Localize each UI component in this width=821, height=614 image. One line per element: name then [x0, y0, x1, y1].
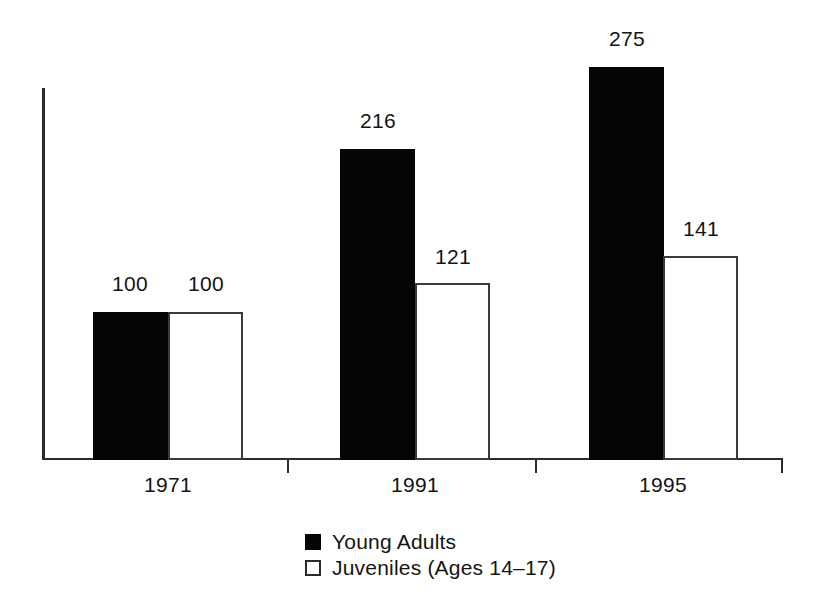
bar-value-1971-young-adults: 100 [90, 272, 170, 296]
x-axis-tick-1 [287, 460, 289, 473]
bar-value-1991-juveniles: 121 [413, 245, 493, 269]
bar-value-1995-juveniles: 141 [661, 217, 741, 241]
x-axis-tick-3 [781, 460, 783, 473]
bar-1995-young-adults[interactable] [589, 67, 664, 460]
bar-1971-juveniles[interactable] [168, 312, 243, 460]
legend-item-juveniles[interactable]: Juveniles (Ages 14–17) [305, 555, 556, 581]
legend-label-juveniles: Juveniles (Ages 14–17) [332, 556, 556, 580]
x-tick-label-1971: 1971 [118, 473, 218, 497]
bar-value-1971-juveniles: 100 [166, 272, 246, 296]
bar-value-1991-young-adults: 216 [338, 109, 418, 133]
bar-1991-juveniles[interactable] [415, 283, 490, 460]
bar-1971-young-adults[interactable] [93, 312, 168, 460]
x-tick-label-1995: 1995 [613, 473, 713, 497]
x-axis-tick-2 [535, 460, 537, 473]
bar-chart: 100 100 216 121 275 141 1971 1991 1995 Y… [0, 0, 821, 614]
bar-value-1995-young-adults: 275 [587, 27, 667, 51]
y-axis-line [42, 88, 45, 460]
chart-legend: Young Adults Juveniles (Ages 14–17) [305, 529, 556, 581]
legend-swatch-filled-square-icon [305, 534, 321, 550]
legend-label-young-adults: Young Adults [332, 530, 456, 554]
bar-1995-juveniles[interactable] [663, 256, 738, 460]
x-tick-label-1991: 1991 [365, 473, 465, 497]
legend-swatch-hollow-square-icon [305, 560, 321, 576]
bar-1991-young-adults[interactable] [340, 149, 415, 460]
legend-item-young-adults[interactable]: Young Adults [305, 529, 556, 555]
